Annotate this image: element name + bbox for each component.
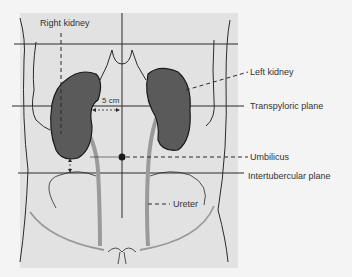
label-left-kidney: Left kidney bbox=[250, 67, 294, 77]
label-transpyloric-plane: Transpyloric plane bbox=[250, 101, 323, 111]
umbilicus-dot bbox=[119, 154, 126, 161]
label-ureter: Ureter bbox=[173, 199, 198, 209]
label-right-kidney: Right kidney bbox=[40, 18, 90, 28]
diagram-canvas bbox=[0, 0, 352, 277]
label-umbilicus: Umbilicus bbox=[250, 152, 289, 162]
label-intertubercular-plane: Intertubercular plane bbox=[248, 171, 331, 181]
kidney-surface-anatomy-diagram: Right kidney Left kidney Transpyloric pl… bbox=[0, 0, 352, 277]
label-distance: 5 cm bbox=[102, 96, 119, 106]
